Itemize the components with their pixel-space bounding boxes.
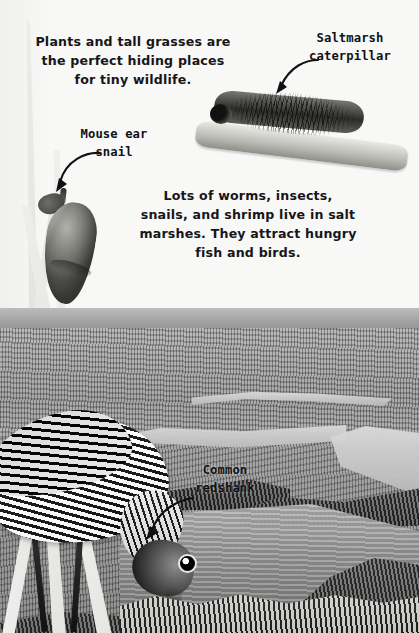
- bird-leg: [70, 530, 83, 632]
- label-common-redshank: Common redshank: [170, 462, 280, 497]
- page-root: Plants and tall grasses are the perfect …: [0, 0, 419, 633]
- leader-arrow-icon: [140, 494, 196, 546]
- bird-eye: [178, 554, 197, 573]
- snail-shell: [37, 199, 101, 307]
- caterpillar-head: [210, 104, 232, 124]
- leader-arrow-icon: [50, 148, 102, 196]
- intro-paragraph: Plants and tall grasses are the perfect …: [30, 32, 236, 89]
- leader-arrow-icon: [272, 56, 320, 98]
- mouse-ear-snail-photo: [36, 188, 102, 306]
- middle-paragraph: Lots of worms, insects, snails, and shri…: [139, 186, 357, 263]
